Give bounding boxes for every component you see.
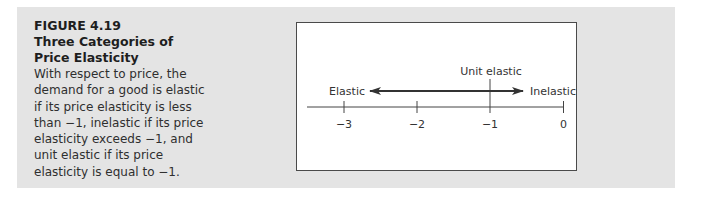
tick-label: 0	[560, 118, 567, 131]
unit-elastic-label: Unit elastic	[460, 65, 522, 78]
tick-label: −1	[482, 118, 498, 131]
number-line-chart: Unit elastic Elastic Inelastic −3 −2 −1 …	[0, 0, 701, 201]
tick-label: −2	[409, 118, 425, 131]
tick-label: −3	[336, 118, 352, 131]
inelastic-label: Inelastic	[530, 85, 576, 98]
elastic-label: Elastic	[329, 85, 365, 98]
